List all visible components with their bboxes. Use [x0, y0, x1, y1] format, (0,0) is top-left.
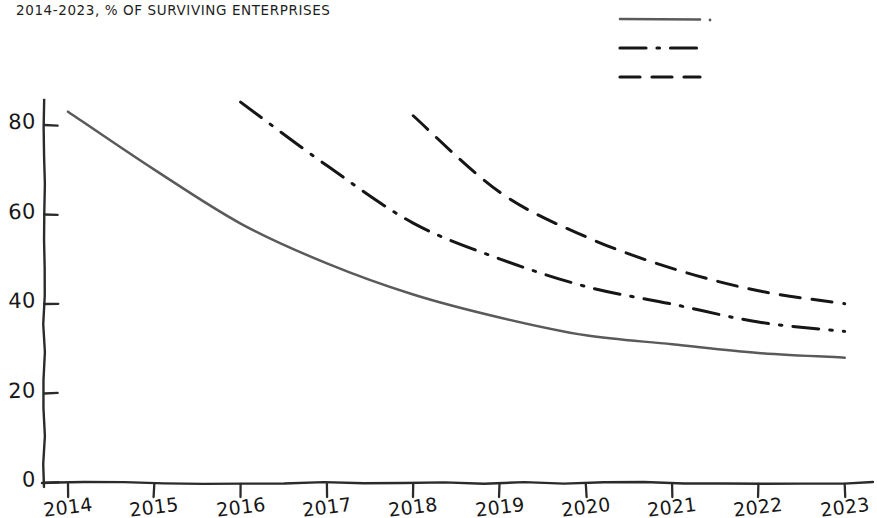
- axis-lines: [42, 100, 873, 487]
- y-tick-label: 20: [0, 378, 36, 403]
- y-tick-label: 60: [0, 199, 36, 224]
- legend-series-1-swatch[interactable]: [620, 19, 700, 20]
- y-tick-label: 80: [0, 109, 36, 134]
- chart-container: 2014-2023, % OF SURVIVING ENTERPRISES 02…: [0, 0, 877, 518]
- legend-series-1-dot: [709, 19, 712, 22]
- y-tick-label: 0: [0, 467, 36, 492]
- x-axis-ticks: [68, 484, 845, 497]
- plot-area: [0, 0, 877, 518]
- legend: [620, 19, 711, 77]
- series-line-cohort-2014: [68, 112, 845, 358]
- y-tick-label: 40: [0, 288, 36, 313]
- series-line-cohort-2018: [413, 116, 845, 304]
- y-axis-ticks: [44, 125, 58, 483]
- data-series-group: [68, 102, 845, 358]
